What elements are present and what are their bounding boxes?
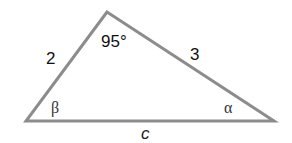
left-angle-label: β bbox=[51, 99, 59, 117]
right-side-label: 3 bbox=[190, 45, 199, 64]
right-angle-label: α bbox=[224, 99, 233, 116]
bottom-side-label: c bbox=[141, 124, 150, 143]
apex-angle-label: 95° bbox=[101, 32, 127, 51]
triangle-diagram: 95° 2 3 β α c bbox=[0, 0, 292, 143]
triangle-shape bbox=[26, 12, 274, 121]
left-side-label: 2 bbox=[46, 49, 55, 68]
